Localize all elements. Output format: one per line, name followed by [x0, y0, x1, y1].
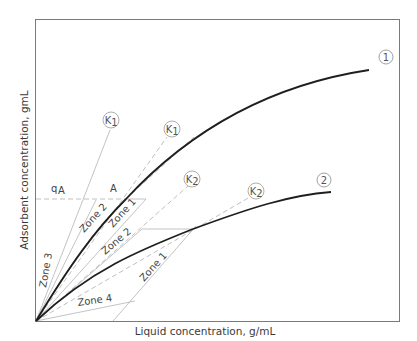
k2-dashed-line-lower	[36, 197, 250, 321]
k2-upper-label: K 2	[184, 171, 200, 187]
svg-text:1: 1	[111, 117, 117, 128]
curve-1-label: 1	[379, 50, 393, 64]
svg-text:1: 1	[383, 52, 389, 63]
k1-solid-label: K 1	[103, 112, 119, 128]
y-axis-label: Adsorbent concentration, gmL	[18, 90, 30, 249]
svg-text:A: A	[58, 185, 65, 196]
isotherm-diagram: 1 2 K 1 K 1 K 2 K 2 q A A Zone 3 Zone 2 …	[0, 0, 417, 341]
svg-text:1: 1	[172, 126, 178, 137]
svg-text:2: 2	[256, 188, 262, 199]
k2-lower-label: K 2	[248, 183, 264, 199]
svg-text:2: 2	[192, 176, 198, 187]
k1-solid-line	[36, 130, 110, 321]
point-a-label: A	[110, 183, 117, 194]
zone-4-label: Zone 4	[77, 292, 113, 308]
zone-3-label: Zone 3	[37, 252, 54, 288]
qa-label: q A	[51, 183, 65, 196]
svg-text:2: 2	[321, 175, 327, 186]
k1-dashed-label: K 1	[164, 121, 180, 137]
plot-frame	[36, 20, 400, 322]
isotherm-curve-1	[36, 70, 369, 321]
x-axis-label: Liquid concentration, g/mL	[135, 325, 276, 337]
svg-text:q: q	[51, 183, 57, 194]
curve-2-label: 2	[317, 173, 331, 187]
zone-1-lower-label: Zone 1	[137, 250, 169, 283]
